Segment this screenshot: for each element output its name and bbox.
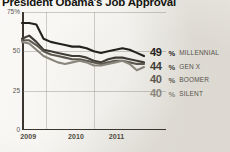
legend-row: 40%SILENT: [150, 87, 230, 101]
legend-percent-sign: %: [169, 49, 176, 58]
x-tick-label: 2009: [20, 133, 36, 140]
legend-percent-sign: %: [169, 76, 176, 85]
x-tick-label: 2011: [109, 133, 125, 140]
plot-area: [22, 12, 144, 130]
legend-label: SILENT: [179, 90, 203, 97]
line-series-group: [22, 12, 144, 130]
legend-row: 49%MILLENNIAL: [150, 46, 230, 60]
y-tick-label: 50: [0, 47, 20, 54]
chart-screenshot: President Obama's Job Approval 75%50250 …: [0, 0, 230, 152]
chart-legend: 49%MILLENNIAL44%GEN X40%BOOMER40%SILENT: [150, 46, 230, 100]
legend-label: BOOMER: [179, 76, 209, 83]
legend-value: 44: [150, 60, 168, 72]
legend-label: MILLENNIAL: [179, 49, 219, 56]
legend-row: 44%GEN X: [150, 60, 230, 74]
x-axis-tick-labels: 200920102011: [22, 133, 172, 145]
legend-label: GEN X: [179, 63, 200, 70]
legend-percent-sign: %: [169, 90, 176, 99]
legend-row: 40%BOOMER: [150, 73, 230, 87]
x-tick-label: 2010: [68, 133, 84, 140]
legend-value: 40: [150, 73, 168, 85]
y-tick-label: 75%: [0, 8, 20, 15]
legend-percent-sign: %: [169, 63, 176, 72]
y-tick-label: 25: [0, 87, 20, 94]
legend-value: 49: [150, 46, 168, 58]
y-axis-tick-labels: 75%50250: [0, 12, 20, 130]
chart-title: President Obama's Job Approval: [2, 0, 202, 8]
legend-value: 40: [150, 87, 168, 99]
line-series-millennial: [22, 23, 144, 56]
y-tick-label: 0: [0, 126, 20, 133]
